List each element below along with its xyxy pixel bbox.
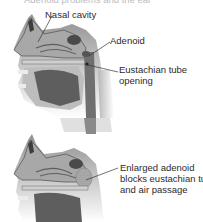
label-enlarged-adenoid-line2: blocks eustachian tube: [120, 173, 203, 184]
label-enlarged-adenoid-line3: and air passage: [120, 184, 188, 195]
panel-enlarged-adenoid: Enlarged adenoid blocks eustachian tube …: [0, 118, 203, 222]
panel-normal-adenoid: Nasal cavity Adenoid Eustachian tube ope…: [0, 0, 203, 120]
head-cross-section-normal-illustration: [0, 0, 203, 120]
label-adenoid: Adenoid: [110, 35, 145, 46]
label-enlarged-adenoid-line1: Enlarged adenoid: [120, 162, 194, 173]
label-eustachian-tube-line2: opening: [119, 75, 153, 86]
label-eustachian-tube-line1: Eustachian tube: [119, 64, 187, 75]
label-nasal-cavity: Nasal cavity: [45, 9, 96, 20]
